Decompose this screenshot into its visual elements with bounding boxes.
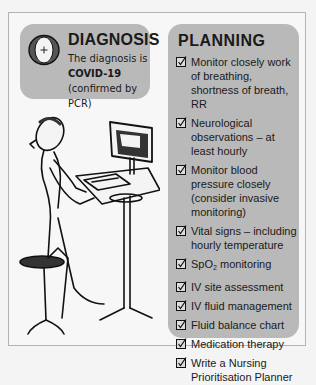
checklist-item-label: Neurological observations – at least hou… — [191, 117, 275, 157]
checklist-item-label: SpO2 monitoring — [191, 258, 271, 270]
checked-box-icon — [176, 164, 187, 175]
diagnosis-text-suffix: (confirmed by PCR) — [68, 82, 137, 110]
person-at-computer-illustration — [14, 108, 160, 338]
checked-box-icon — [176, 258, 187, 269]
checked-box-icon — [176, 117, 187, 128]
checked-box-icon — [176, 300, 187, 311]
checklist-item[interactable]: SpO2 monitoring — [176, 257, 298, 275]
checklist-item-label: Monitor blood pressure closely (consider… — [191, 164, 279, 218]
diagnosis-title: DIAGNOSIS — [68, 31, 160, 49]
checklist-item[interactable]: Fluid balance chart — [176, 318, 298, 332]
checked-box-icon — [176, 281, 187, 292]
checklist-item[interactable]: IV site assessment — [176, 280, 298, 294]
spo2-suffix: monitoring — [217, 258, 271, 270]
checklist-item[interactable]: Neurological observations – at least hou… — [176, 116, 298, 158]
diagnosis-panel: DIAGNOSIS The diagnosis is COVID-19 (con… — [20, 24, 150, 99]
diagnosis-name: COVID-19 — [68, 67, 121, 80]
planning-checklist: Monitor closely work of breathing, short… — [176, 55, 298, 385]
checklist-item-label: IV site assessment — [191, 281, 283, 293]
checklist-item-label: Monitor closely work of breathing, short… — [191, 56, 291, 110]
checklist-item[interactable]: Medication therapy — [176, 337, 298, 351]
checklist-item[interactable]: Monitor closely work of breathing, short… — [176, 55, 298, 111]
spo2-prefix: SpO — [191, 258, 213, 270]
checklist-item[interactable]: Monitor blood pressure closely (consider… — [176, 163, 298, 219]
checked-box-icon — [176, 338, 187, 349]
checklist-item-label: IV fluid management — [191, 300, 292, 312]
checklist-item[interactable]: Vital signs – including hourly temperatu… — [176, 224, 298, 252]
checklist-item[interactable]: IV fluid management — [176, 299, 298, 313]
planning-panel: PLANNING Monitor closely work of breathi… — [168, 24, 299, 338]
checked-box-icon — [176, 357, 187, 368]
checklist-item[interactable]: Write a Nursing Prioritisation Planner — [176, 356, 298, 384]
checklist-item-label: Medication therapy — [191, 338, 284, 350]
diagnosis-icon — [28, 34, 60, 66]
checklist-item-label: Fluid balance chart — [191, 319, 284, 331]
checked-box-icon — [176, 56, 187, 67]
planning-title: PLANNING — [178, 32, 266, 50]
checked-box-icon — [176, 225, 187, 236]
checked-box-icon — [176, 319, 187, 330]
checklist-item-label: Vital signs – including hourly temperatu… — [191, 225, 297, 251]
diagnosis-text-prefix: The diagnosis is — [68, 52, 147, 65]
diagnosis-text: The diagnosis is COVID-19 (confirmed by … — [68, 51, 150, 111]
checklist-item-label: Write a Nursing Prioritisation Planner — [191, 357, 293, 383]
